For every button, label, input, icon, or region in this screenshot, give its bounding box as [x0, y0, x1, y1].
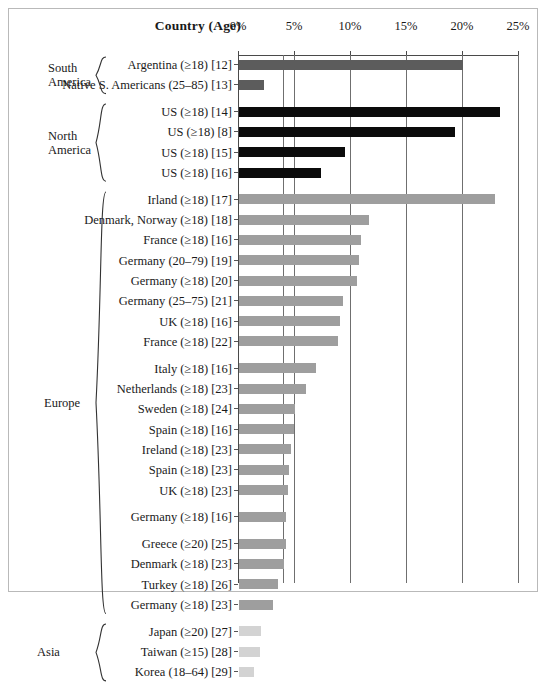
y-tick-mark [234, 300, 238, 301]
y-tick-mark [234, 260, 238, 261]
bar-row [238, 312, 519, 332]
group-label-sa: South America [48, 61, 91, 89]
x-tick-label: 10% [327, 19, 373, 34]
y-tick-mark [234, 604, 238, 605]
category-label: France (≥18) [16] [19, 234, 232, 247]
category-label: Greece (≥20) [25] [19, 538, 232, 551]
bar [239, 465, 289, 475]
y-tick-mark [234, 388, 238, 389]
category-label: Germany (20–79) [19] [19, 255, 232, 268]
group-brace-eu [93, 191, 109, 615]
bar-row [238, 143, 519, 163]
category-label: US (≥18) [16] [19, 167, 232, 180]
bar [239, 316, 340, 326]
category-label: Germany (≥18) [23] [19, 599, 232, 612]
group-label-eu: Europe [44, 396, 91, 410]
bar-row [238, 507, 519, 527]
group-brace-as [93, 623, 109, 682]
category-label: France (≥18) [22] [19, 336, 232, 349]
bar-row [238, 481, 519, 501]
group-brace-sa [93, 56, 109, 95]
bar-row [238, 379, 519, 399]
bar [239, 667, 254, 677]
y-tick-mark [234, 239, 238, 240]
x-tick-label: 5% [271, 19, 317, 34]
bar [239, 107, 500, 117]
bar-row [238, 595, 519, 615]
y-tick-mark [234, 368, 238, 369]
bar [239, 276, 357, 286]
chart-header: Country (Age) 0%5%10%15%20%25% [9, 18, 539, 40]
bar-row [238, 622, 519, 642]
bar-row [238, 55, 519, 75]
bar [239, 147, 345, 157]
bar-row [238, 271, 519, 291]
x-tick-label: 15% [383, 19, 429, 34]
y-tick-mark [234, 671, 238, 672]
x-tick-label: 20% [439, 19, 485, 34]
bar [239, 363, 316, 373]
bar-row [238, 210, 519, 230]
bar [239, 60, 463, 70]
category-label: Spain (≥18) [16] [19, 424, 232, 437]
y-tick-mark [234, 131, 238, 132]
category-label: Germany (≥18) [20] [19, 275, 232, 288]
category-label: Germany (≥18) [16] [19, 511, 232, 524]
category-label: Denmark, Norway (≥18) [18] [19, 214, 232, 227]
bar [239, 424, 294, 434]
bar-row [238, 460, 519, 480]
bar-row [238, 332, 519, 352]
bar-row [238, 251, 519, 271]
y-tick-mark [234, 516, 238, 517]
x-tick-label: 25% [495, 19, 541, 34]
chart-frame: Country (Age) 0%5%10%15%20%25% Argentina… [8, 8, 538, 592]
bar [239, 336, 338, 346]
bar-row [238, 230, 519, 250]
category-label: Denmark (≥18) [23] [19, 558, 232, 571]
bar-row [238, 440, 519, 460]
bar [239, 127, 455, 137]
plot-area [238, 55, 519, 583]
y-tick-mark [234, 449, 238, 450]
group-label-na: North America [48, 129, 91, 157]
category-label: Netherlands (≥18) [23] [19, 383, 232, 396]
bar-row [238, 554, 519, 574]
y-tick-mark [234, 341, 238, 342]
y-tick-mark [234, 84, 238, 85]
bar-row [238, 420, 519, 440]
category-label: US (≥18) [14] [19, 106, 232, 119]
bar [239, 559, 284, 569]
category-label: Spain (≥18) [23] [19, 464, 232, 477]
category-label: Germany (25–75) [21] [19, 295, 232, 308]
bar [239, 512, 286, 522]
bar [239, 235, 361, 245]
bar-row [238, 163, 519, 183]
bar [239, 404, 295, 414]
bar [239, 647, 260, 657]
bar-row [238, 359, 519, 379]
y-tick-mark [234, 563, 238, 564]
bar [239, 626, 261, 636]
bar-row [238, 642, 519, 662]
bar [239, 444, 291, 454]
bar-row [238, 122, 519, 142]
category-label: Japan (≥20) [27] [19, 626, 232, 639]
bar [239, 384, 306, 394]
y-tick-mark [234, 429, 238, 430]
bar-row [238, 399, 519, 419]
y-tick-mark [234, 219, 238, 220]
bar [239, 485, 288, 495]
y-tick-mark [234, 584, 238, 585]
bar-row [238, 662, 519, 682]
category-label: Turkey (≥18) [26] [19, 579, 232, 592]
y-tick-mark [234, 490, 238, 491]
y-tick-mark [234, 199, 238, 200]
group-label-as: Asia [37, 645, 91, 659]
group-brace-na [93, 103, 109, 182]
bar [239, 194, 495, 204]
y-tick-mark [234, 651, 238, 652]
country-column-header: Country (Age) [19, 18, 241, 34]
bar-row [238, 575, 519, 595]
y-tick-mark [234, 321, 238, 322]
category-label: UK (≥18) [23] [19, 485, 232, 498]
